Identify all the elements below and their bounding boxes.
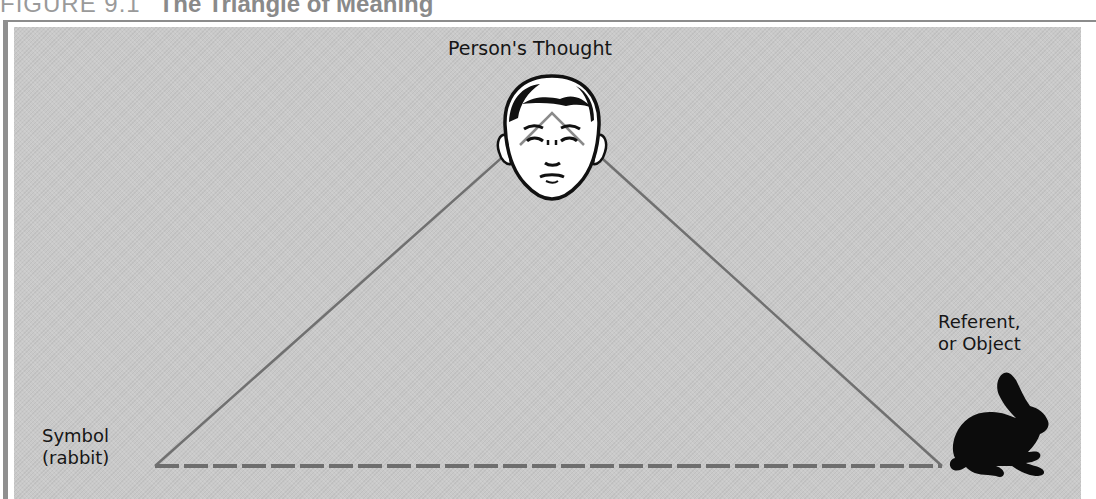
face-icon [498,76,606,199]
rabbit-silhouette-icon [950,372,1049,477]
referent-label-line1: Referent, [938,311,1021,333]
symbol-label-line1: Symbol [42,425,109,447]
triangle-diagram [0,0,1096,499]
symbol-label-line2: (rabbit) [42,447,109,469]
referent-label-line2: or Object [938,333,1021,355]
referent-label: Referent, or Object [938,311,1021,355]
edge-symbol-thought [155,113,552,466]
symbol-label: Symbol (rabbit) [42,425,109,469]
thought-label: Person's Thought [448,36,612,60]
edge-thought-referent [552,113,942,466]
